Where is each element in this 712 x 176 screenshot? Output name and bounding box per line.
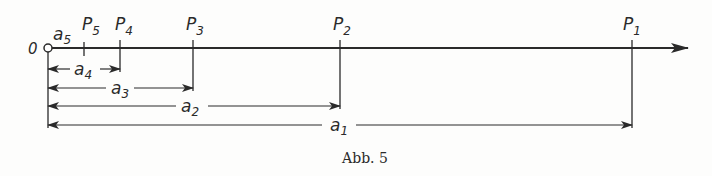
figure-caption: Abb. 5: [341, 150, 388, 166]
label-a2: a2: [181, 96, 199, 119]
origin-label: 0: [28, 40, 38, 58]
origin-circle: [44, 44, 52, 52]
label-a1: a1: [330, 115, 348, 138]
label-p4: P4: [115, 14, 133, 38]
label-p3: P3: [186, 14, 204, 38]
label-p1: P1: [623, 14, 641, 38]
label-a3: a3: [111, 78, 129, 101]
label-p2: P2: [333, 14, 351, 38]
label-p5: P5: [82, 14, 100, 38]
label-a5: a5: [53, 24, 71, 47]
label-a4: a4: [74, 59, 92, 82]
figure: 0 P5 P4 P3 P2 P1 a5 a4 a3 a2 a1 Abb. 5: [0, 0, 712, 176]
number-line-diagram: 0 P5 P4 P3 P2 P1 a5 a4 a3 a2 a1 Abb. 5: [0, 0, 712, 176]
